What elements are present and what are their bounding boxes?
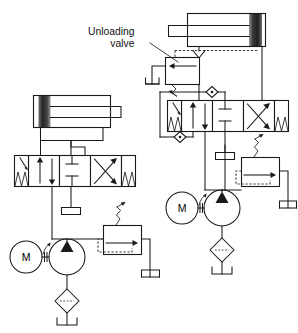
left-directional-valve[interactable] xyxy=(15,156,136,187)
left-cylinder-icon xyxy=(34,96,122,128)
right-valve-spring-right-icon xyxy=(275,101,289,132)
right-check-valve-upper xyxy=(199,87,225,101)
unloading-valve-label: Unloading valve xyxy=(88,26,134,49)
left-circuit: M xyxy=(10,96,160,326)
circuit-svg: M xyxy=(0,0,298,333)
hydraulic-circuit-diagram: M xyxy=(0,0,298,333)
left-valve-supply-lines xyxy=(52,187,81,240)
right-motor-label: M xyxy=(178,202,187,214)
unloading-valve-label-line2: valve xyxy=(88,38,134,50)
left-valve-spring-left-icon xyxy=(15,156,29,187)
unloading-valve-label-line1: Unloading xyxy=(88,26,134,38)
right-pump-motor-group: M xyxy=(166,190,241,226)
left-pump-motor-group: M xyxy=(10,239,103,275)
left-motor-label: M xyxy=(22,251,31,263)
left-suction-filter-group xyxy=(55,275,79,325)
right-valve-supply-lines xyxy=(205,132,235,191)
right-relief-valve[interactable] xyxy=(236,134,297,208)
unloading-valve[interactable] xyxy=(146,51,200,97)
left-relief-valve[interactable] xyxy=(98,202,160,277)
right-valve-spring-left-icon xyxy=(168,101,182,132)
left-cylinder-port-lines xyxy=(41,128,104,156)
right-cylinder-icon xyxy=(169,14,266,47)
right-circuit: M xyxy=(146,14,297,275)
right-suction-filter-group xyxy=(210,226,234,274)
unloading-valve-leader-line xyxy=(150,43,178,62)
left-valve-spring-right-icon xyxy=(122,156,136,187)
right-directional-valve[interactable] xyxy=(168,101,289,132)
